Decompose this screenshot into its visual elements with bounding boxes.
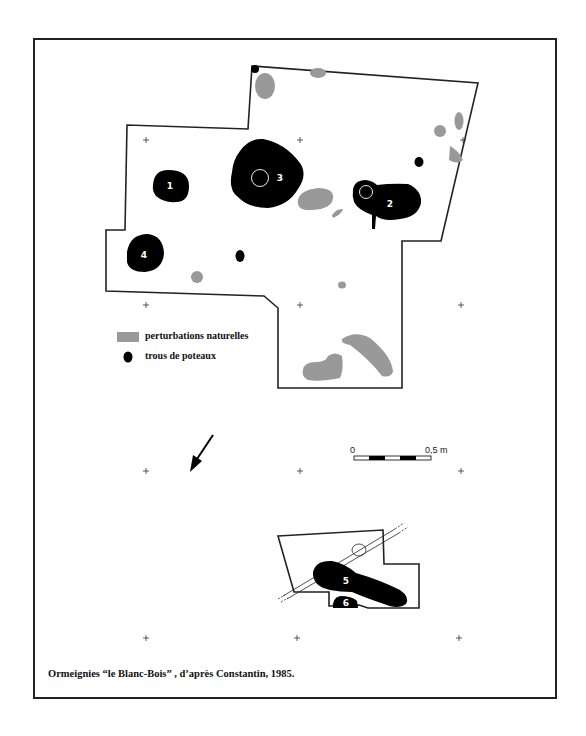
disturbance-patch — [298, 188, 333, 210]
disturbance-patch — [338, 282, 346, 289]
legend-label-post-holes: trous de poteaux — [145, 350, 216, 361]
post-hole-3-label: 3 — [277, 173, 283, 183]
disturbance-patch — [332, 209, 343, 218]
grid-crosses — [143, 137, 466, 641]
scale-start-label: 0 — [350, 445, 355, 455]
scale-bar: 0 0,5 m — [350, 445, 448, 460]
post-hole-small — [236, 250, 245, 262]
post-hole-1-label: 1 — [167, 181, 173, 191]
disturbance-patch — [255, 73, 275, 99]
figure-caption: Ormeignies “le Blanc-Bois” , d’après Con… — [48, 668, 294, 679]
post-hole-small — [415, 157, 424, 167]
lower-small-pit — [352, 544, 366, 556]
post-hole-small — [251, 65, 259, 73]
disturbance-patch — [303, 354, 343, 381]
post-hole-5 — [313, 561, 407, 607]
legend-grey-patch-icon — [117, 332, 139, 342]
legend-black-dot-icon — [124, 352, 133, 363]
disturbance-patch — [191, 271, 203, 283]
disturbance-patch — [310, 68, 326, 78]
disturbance-patch — [434, 125, 446, 137]
post-hole-6-label: 6 — [343, 598, 349, 608]
legend-label-disturbances: perturbations naturelles — [145, 330, 248, 341]
post-hole-4-label: 4 — [141, 250, 147, 260]
post-holes: 1 2 3 4 — [127, 65, 424, 272]
scale-end-label: 0,5 m — [425, 445, 448, 455]
plan-drawing: 1 2 3 4 — [0, 0, 586, 736]
figure-canvas: 1 2 3 4 — [0, 0, 586, 736]
disturbance-patch — [342, 334, 393, 376]
post-hole-5-label: 5 — [343, 576, 349, 586]
north-arrow-icon — [190, 435, 213, 472]
disturbance-patch — [455, 112, 464, 130]
post-hole-2-label: 2 — [387, 199, 393, 209]
